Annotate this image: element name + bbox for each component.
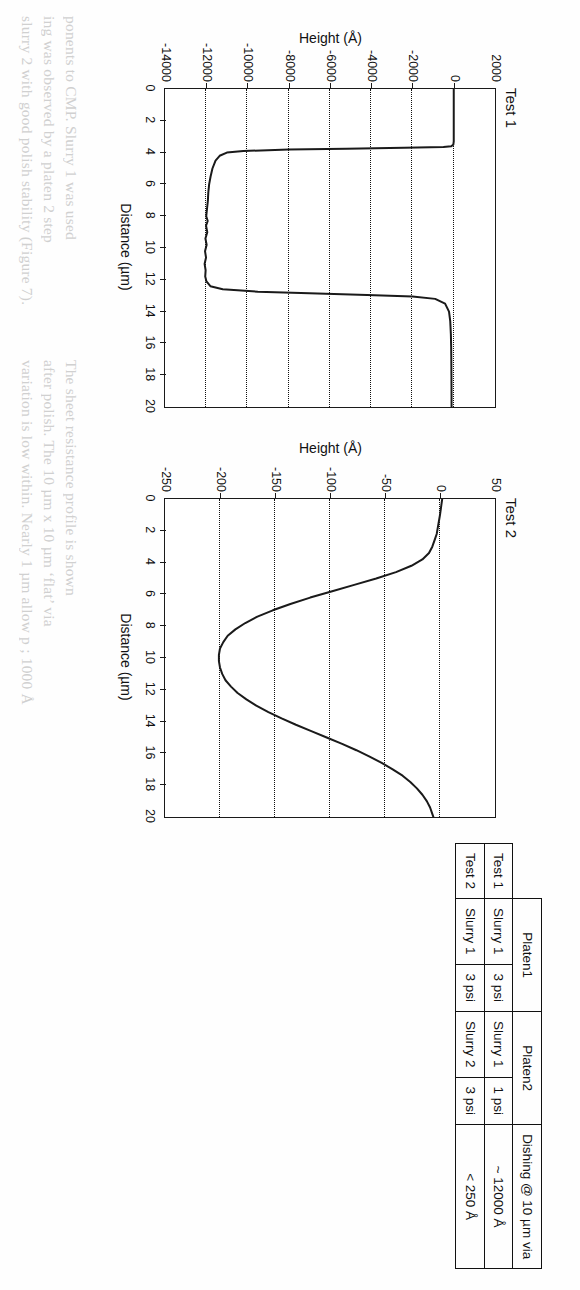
profile-curve: [165, 499, 495, 817]
table-group-header-dishing: Dishing @ 10 µm via: [513, 1125, 542, 1269]
y-tick-label: -8000: [283, 50, 297, 82]
x-tick-label: 0: [143, 85, 157, 92]
table-cell-test-label: Test 2: [456, 844, 485, 899]
x-tick-mark: [160, 120, 166, 121]
y-tick-label: -250: [159, 467, 173, 492]
cmp-process-comparison-table: Platen1 Platen2 Dishing @ 10 µm via Test…: [455, 843, 542, 1269]
x-tick-label: 6: [143, 180, 157, 187]
x-tick-label: 8: [143, 212, 157, 219]
y-tick-label: -150: [269, 467, 283, 492]
x-tick-mark: [160, 215, 166, 216]
x-tick-mark: [160, 311, 166, 312]
chart-title-test2: Test 2: [503, 498, 520, 538]
y-tick-label: -200: [214, 467, 228, 492]
scanned-page-canvas: ponents to CMP. Slurry 1 was used ing wa…: [0, 0, 580, 1290]
x-tick-mark: [160, 593, 166, 594]
x-tick-label: 20: [143, 809, 157, 823]
table-group-header-platen1: Platen1: [513, 899, 542, 1012]
y-tick-label: -100: [324, 467, 338, 492]
table-cell-p1-pressure: 3 psi: [484, 964, 513, 1012]
y-tick-label: -50: [379, 474, 393, 492]
plot-area-test1: [164, 88, 496, 408]
y-tick-label: 50: [489, 478, 503, 492]
x-tick-label: 2: [143, 526, 157, 533]
x-axis-title-test2: Distance (µm): [118, 498, 134, 816]
table-cell-p1-slurry: Slurry 1: [456, 899, 485, 965]
y-tick-label: 0: [434, 485, 448, 492]
comparison-table-wrap: Platen1 Platen2 Dishing @ 10 µm via Test…: [455, 843, 542, 1269]
table-corner-cell: [513, 844, 542, 899]
x-tick-label: 2: [143, 116, 157, 123]
x-tick-label: 10: [143, 650, 157, 664]
y-tick-mark: [371, 83, 372, 88]
y-tick-label: -4000: [365, 50, 379, 82]
x-tick-mark: [160, 721, 166, 722]
x-axis-title-test1: Distance (µm): [118, 88, 134, 406]
x-tick-mark: [160, 752, 166, 753]
table-cell-p2-pressure: 3 psi: [456, 1077, 485, 1125]
table-cell-p1-pressure: 3 psi: [456, 964, 485, 1012]
x-tick-mark: [160, 784, 166, 785]
y-tick-mark: [220, 493, 221, 498]
table-cell-p2-slurry: Slurry 2: [456, 1012, 485, 1078]
y-tick-label: 2000: [489, 54, 503, 82]
x-tick-mark: [160, 374, 166, 375]
x-tick-mark: [160, 657, 166, 658]
chart-test2: Test 2 500-50-100-150-200-250 0246810121…: [70, 424, 522, 854]
x-tick-mark: [160, 625, 166, 626]
y-tick-label: 0: [448, 75, 462, 82]
table-row: Test 1 Slurry 1 3 psi Slurry 1 1 psi ~ 1…: [484, 844, 513, 1269]
x-tick-label: 0: [143, 495, 157, 502]
x-tick-mark: [160, 279, 166, 280]
y-axis-title-test1: Height (Å): [300, 30, 363, 46]
y-tick-mark: [454, 83, 455, 88]
y-tick-label: -2000: [407, 50, 421, 82]
x-tick-label: 16: [143, 335, 157, 349]
table-cell-dishing: < 250 Å: [456, 1125, 485, 1269]
y-tick-mark: [248, 83, 249, 88]
x-tick-label: 18: [143, 777, 157, 791]
x-tick-mark: [160, 342, 166, 343]
x-tick-label: 14: [143, 714, 157, 728]
table-group-header-platen2: Platen2: [513, 1012, 542, 1125]
x-tick-mark: [160, 530, 166, 531]
x-tick-mark: [160, 247, 166, 248]
table-cell-test-label: Test 1: [484, 844, 513, 899]
y-tick-label: -10000: [242, 43, 256, 82]
y-tick-mark: [330, 83, 331, 88]
profile-curve: [165, 89, 495, 407]
x-tick-mark: [160, 183, 166, 184]
x-tick-label: 4: [143, 558, 157, 565]
x-tick-mark: [160, 152, 166, 153]
x-tick-label: 12: [143, 272, 157, 286]
y-tick-mark: [385, 493, 386, 498]
chart-test1: Test 1 20000-2000-4000-6000-8000-10000-1…: [70, 14, 522, 444]
x-tick-mark: [160, 689, 166, 690]
x-tick-label: 14: [143, 304, 157, 318]
x-tick-label: 6: [143, 590, 157, 597]
x-tick-label: 20: [143, 399, 157, 413]
y-tick-mark: [275, 493, 276, 498]
x-tick-label: 4: [143, 148, 157, 155]
table-cell-p2-slurry: Slurry 1: [484, 1012, 513, 1078]
y-axis-title-test2: Height (Å): [300, 440, 363, 456]
y-tick-label: -6000: [324, 50, 338, 82]
x-tick-label: 8: [143, 622, 157, 629]
y-tick-mark: [206, 83, 207, 88]
ghost-line: ing was observed by a platen 2 step: [40, 16, 58, 243]
ghost-line: variation is low within. Nearly 1 µm all…: [18, 360, 36, 705]
table-cell-dishing: ~ 12000 Å: [484, 1125, 513, 1269]
table-header-group-row: Platen1 Platen2 Dishing @ 10 µm via: [513, 844, 542, 1269]
table-row: Test 2 Slurry 1 3 psi Slurry 2 3 psi < 2…: [456, 844, 485, 1269]
x-tick-label: 18: [143, 367, 157, 381]
y-tick-mark: [330, 493, 331, 498]
table-cell-p2-pressure: 1 psi: [484, 1077, 513, 1125]
ghost-line: slurry 2 with good polish stability (Fig…: [18, 16, 36, 305]
plot-area-test2: [164, 498, 496, 818]
y-tick-mark: [413, 83, 414, 88]
x-tick-label: 16: [143, 745, 157, 759]
table-cell-p1-slurry: Slurry 1: [484, 899, 513, 965]
x-tick-label: 12: [143, 682, 157, 696]
x-tick-mark: [160, 562, 166, 563]
x-tick-label: 10: [143, 240, 157, 254]
